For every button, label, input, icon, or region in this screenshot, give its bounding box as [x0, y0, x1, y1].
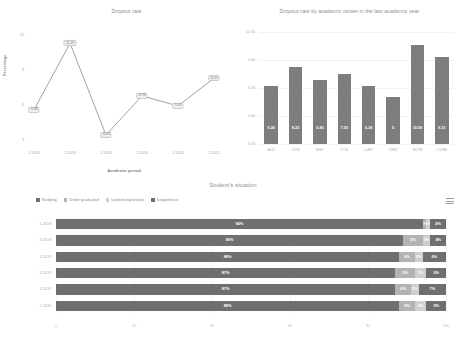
stacked-bar-gridline [212, 216, 213, 314]
line-chart-y-tick: 6 [22, 103, 24, 107]
legend-label: Under graduated [69, 198, 98, 202]
stacked-bar-segment[interactable]: 4% [399, 252, 415, 262]
bar-chart-bar[interactable]: 6.26 [264, 86, 277, 144]
line-chart-x-tick: 2-2019 [100, 151, 111, 155]
stacked-bar-row-label: 2-2020 [40, 304, 56, 308]
line-chart-y-tick: 9 [22, 68, 24, 72]
stacked-bar-segment[interactable]: 87% [56, 284, 395, 294]
legend-item[interactable]: Dropped out [151, 198, 178, 202]
stacked-bar-segment[interactable]: 5% [426, 268, 446, 278]
bar-chart-bar[interactable]: 10.59 [411, 45, 424, 144]
stacked-bar-segment[interactable]: 2% [411, 284, 419, 294]
stacked-bar-segment-label: 87% [222, 288, 230, 292]
stacked-bar-row-label: 1-2018 [40, 222, 56, 226]
stacked-bar-segment[interactable]: 87% [56, 268, 395, 278]
bar-chart-y-tick: 12.00 [246, 30, 255, 34]
line-chart-panel: Dropout rate Percentage 12963 5.5811.293… [0, 8, 233, 180]
bar-chart-value-label: 6.26 [365, 126, 372, 130]
stacked-bar-row: 1-201894%1%1%4% [56, 219, 446, 229]
stacked-bar-segment-label: 5% [433, 271, 439, 275]
legend-swatch-icon [64, 198, 68, 202]
stacked-bar-segment[interactable]: 3% [415, 301, 427, 311]
stacked-bar-segment-label: 88% [224, 304, 232, 308]
stacked-bar-segment-label: 4% [400, 288, 406, 292]
bar-chart-bar[interactable]: 6.83 [313, 80, 326, 144]
line-chart-title: Dropout rate [0, 8, 233, 14]
legend-swatch-icon [36, 198, 40, 202]
bar-chart-bar[interactable]: 6.26 [362, 86, 375, 144]
stacked-bar-segment-label: 88% [224, 255, 232, 259]
line-chart-plot: 5.5811.293.436.785.928.29 [26, 30, 222, 145]
line-chart-point-label: 6.78 [136, 93, 147, 99]
bar-chart-y-tick: 0.00 [248, 142, 255, 146]
bar-chart-bar[interactable]: 8.22 [289, 67, 302, 144]
bar-chart-x-ticks: ACDCCNEISTCCSLUETCINOSCTNCCHE [259, 148, 454, 158]
stacked-bar-segment-label: 2% [416, 255, 422, 259]
bar-chart-x-tick: LUET [364, 148, 373, 152]
bar-chart-value-label: 6.26 [267, 126, 274, 130]
bar-chart-y-tick: 3.00 [248, 114, 255, 118]
stacked-bar-row-label: 1-2019 [40, 255, 56, 259]
stacked-bar-gridline [368, 216, 369, 314]
legend-swatch-icon [106, 198, 110, 202]
stacked-bar-segment[interactable]: 3% [415, 268, 427, 278]
stacked-bar-segment[interactable]: 88% [56, 301, 399, 311]
line-chart-series [26, 30, 222, 145]
bar-chart-gridline [259, 60, 454, 61]
bar-chart-value-label: 7.55 [341, 126, 348, 130]
legend-item[interactable]: Under graduated [64, 198, 99, 202]
stacked-bar-segment[interactable]: 2% [423, 235, 431, 245]
hamburger-menu-icon[interactable] [446, 198, 454, 204]
line-chart-x-axis-label: Academic period [26, 168, 222, 173]
stacked-bar-segment-label: 5% [433, 304, 439, 308]
bar-chart-x-tick: SCTN [413, 148, 423, 152]
bar-chart-bar[interactable]: 9.31 [435, 57, 448, 144]
line-chart-x-ticks: 2-20181-20192-20191-20202-20201-2021 [26, 151, 222, 160]
stacked-bar-title: Student's situation [0, 182, 466, 188]
bar-chart-bar[interactable]: 7.55 [338, 74, 351, 144]
bar-chart-y-tick: 9.00 [248, 58, 255, 62]
stacked-bar-segment[interactable]: 4% [430, 235, 446, 245]
bar-chart-value-label: 6.83 [316, 126, 323, 130]
stacked-bar-legend: StudyingUnder graduatedLooked registrati… [36, 198, 178, 202]
stacked-bar-x-tick: 20 [132, 324, 136, 328]
stacked-bar-gridline [290, 216, 291, 314]
legend-item[interactable]: Looked registration [106, 198, 145, 202]
stacked-bar-segment-label: 5% [402, 271, 408, 275]
stacked-bar-gridline [446, 216, 447, 314]
bar-chart-value-label: 5 [392, 126, 394, 130]
bar-chart-x-tick: ACD [267, 148, 274, 152]
stacked-bar-row-label: 1-2020 [40, 287, 56, 291]
stacked-bar-segment[interactable]: 4% [395, 284, 411, 294]
stacked-bar-segment[interactable]: 2% [415, 252, 423, 262]
legend-item[interactable]: Studying [36, 198, 57, 202]
stacked-bar-gridline [56, 216, 57, 314]
stacked-bar-segment[interactable]: 94% [56, 219, 423, 229]
stacked-bar-segment-label: 4% [435, 222, 441, 226]
stacked-bar-segment-label: 3% [418, 304, 424, 308]
stacked-bar-segment[interactable]: 5% [426, 301, 446, 311]
line-chart-x-tick: 1-2019 [64, 151, 75, 155]
stacked-bar-segment[interactable]: 4% [430, 219, 446, 229]
line-chart-point-label: 8.29 [208, 75, 219, 81]
stacked-bar-segment[interactable]: 7% [419, 284, 446, 294]
stacked-bar-segment[interactable]: 6% [423, 252, 446, 262]
stacked-bar-segment-label: 4% [404, 304, 410, 308]
stacked-bar-segment-label: 3% [418, 271, 424, 275]
stacked-bar-segment-label: 94% [235, 222, 243, 226]
stacked-bar-segment[interactable]: 89% [56, 235, 403, 245]
legend-label: Dropped out [157, 198, 178, 202]
stacked-bar-x-ticks: 020406080100 [56, 324, 446, 334]
bar-chart-title: Dropout rate by academic center in the l… [233, 8, 466, 14]
bar-chart-bar[interactable]: 5 [386, 97, 399, 144]
legend-swatch-icon [151, 198, 155, 202]
stacked-bar-segment-label: 2% [424, 239, 430, 243]
stacked-bar-x-tick: 60 [288, 324, 292, 328]
stacked-bar-row: 2-201889%5%2%4% [56, 235, 446, 245]
stacked-bar-segment[interactable]: 5% [395, 268, 415, 278]
stacked-bar-segment[interactable]: 5% [403, 235, 423, 245]
stacked-bar-segment-label: 2% [412, 288, 418, 292]
stacked-bar-segment-label: 89% [226, 239, 234, 243]
stacked-bar-segment[interactable]: 88% [56, 252, 399, 262]
stacked-bar-segment[interactable]: 4% [399, 301, 415, 311]
